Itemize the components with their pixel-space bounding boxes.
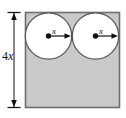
height-dimension-top-arrowhead — [11, 13, 17, 20]
figure-canvas — [0, 0, 126, 118]
height-dimension-bottom-arrowhead — [11, 100, 17, 107]
right-circle-radius-label: x — [99, 27, 103, 36]
left-circle-radius-label: x — [52, 27, 56, 36]
geometry-figure: 4x x x — [0, 0, 126, 118]
height-dimension-label: 4x — [2, 50, 13, 62]
height-label-variable: x — [8, 49, 13, 63]
